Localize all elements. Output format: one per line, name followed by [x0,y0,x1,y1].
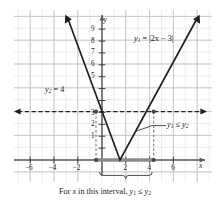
x-tick-label-neg6: −6 [25,165,33,172]
graph-canvas [0,0,220,205]
caption-ineq-relation: ≤ [136,187,145,196]
y-tick-label-8: 8 [91,38,95,45]
dot-intersection-right [152,110,156,114]
y-tick-label-2: 2 [91,121,95,128]
x-tick-label-6: 6 [171,165,175,172]
figure-background [0,0,220,205]
y-tick-label-9: 9 [91,26,95,33]
caption-ineq-right-subscript: 2 [148,190,151,196]
inequality-callout-label: y1 ≤ y2 [167,121,188,129]
x-tick-label-neg4: −4 [49,165,57,172]
interval-caption: For x in this interval, y1 ≤ y2 [59,188,151,196]
caption-middle: in this interval, [76,187,129,196]
y-tick-label-1: 1 [91,133,95,140]
equation-y1-subscript: 1 [138,37,141,43]
equation-label-y1: y1 = |2x − 3| [134,35,173,43]
x-tick-label-neg2: −2 [73,165,81,172]
y-axis-label: y [104,16,107,24]
absolute-value-graph-figure: y x 9 8 7 6 5 3 2 1 −6 −4 −2 2 4 6 y1 = … [0,0,220,205]
callout-relation: ≤ [175,120,180,129]
y-tick-label-3: 3 [91,110,95,117]
x-tick-label-4: 4 [147,165,151,172]
y-tick-label-7: 7 [91,49,95,56]
x-tick-label-2: 2 [124,165,128,172]
equation-y1-rhs: = |2x − 3| [142,34,173,43]
dot-endpoint-left [94,158,98,162]
y-tick-label-5: 5 [91,73,95,80]
callout-right-subscript: 2 [186,123,189,129]
equation-y2-subscript: 2 [49,88,52,94]
y-tick-label-6: 6 [91,61,95,68]
callout-left-subscript: 1 [171,123,174,129]
caption-prefix: For [59,187,72,196]
dot-endpoint-right [152,158,156,162]
x-axis-label: x [199,162,202,170]
equation-label-y2: y2 = 4 [45,86,64,94]
equation-y2-rhs: = 4 [53,85,64,94]
